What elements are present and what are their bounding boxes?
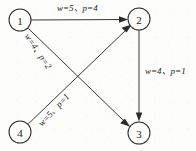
node-4[interactable]: 4 bbox=[9, 121, 31, 143]
node-3-label: 3 bbox=[136, 128, 142, 140]
node-1[interactable]: 1 bbox=[9, 9, 31, 31]
edge-2-to-3 bbox=[136, 30, 142, 122]
node-4-label: 4 bbox=[17, 127, 23, 139]
edge-2-to-3-arrowhead bbox=[136, 113, 142, 122]
edge-1-to-2-arrowhead bbox=[119, 16, 128, 22]
edge-4-to-2 bbox=[28, 25, 131, 124]
node-1-label: 1 bbox=[17, 15, 23, 27]
edge-1-to-2 bbox=[31, 16, 128, 22]
edge-label-1-to-2: w=5、p=4 bbox=[57, 4, 98, 13]
edge-4-to-2-line bbox=[28, 30, 126, 124]
diagram-canvas: 1 2 3 4 w=5、p=4 w=4、p=2 w=5、p=1 w=4、p=1 bbox=[0, 0, 196, 151]
node-2[interactable]: 2 bbox=[128, 8, 150, 30]
edge-label-2-to-3: w=4、p=1 bbox=[145, 67, 186, 76]
edge-1-to-3-line bbox=[28, 28, 124, 121]
node-3[interactable]: 3 bbox=[128, 122, 150, 144]
edge-1-to-3-arrowhead bbox=[120, 118, 130, 126]
edge-1-to-2-line bbox=[31, 20, 122, 21]
node-2-label: 2 bbox=[136, 14, 142, 26]
